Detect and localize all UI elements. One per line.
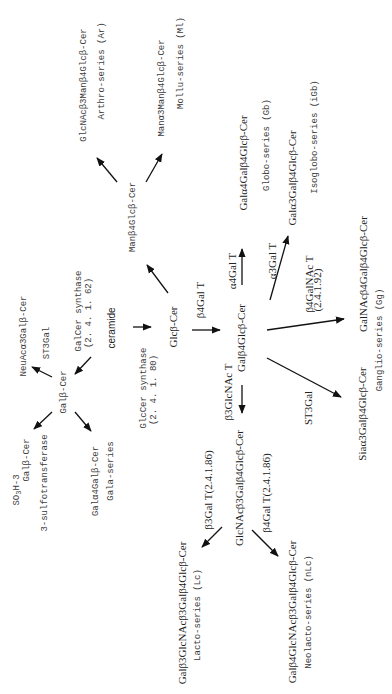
enzyme-b3glcnact: β3GlcNAc T	[223, 363, 234, 420]
arrow-to-arthro-core	[97, 158, 117, 182]
glycosphingolipid-pathway-diagram: GlcNAcβ3Manβ4Glcβ-Cer Arthro-series (Ar)…	[0, 0, 392, 694]
series-gala: Gala-series	[107, 441, 116, 500]
node-sialyl-lactosylcer: Siaα3Galβ4Glcβ-Cer	[357, 367, 368, 460]
enzyme-b3galt: β3Gal T(2.4.1.86)	[203, 450, 214, 529]
arrow-to-sulfo-galcer	[34, 412, 52, 429]
arrow-to-lacto-core	[202, 527, 222, 547]
series-ganglio: Ganglio-series (Gg)	[376, 289, 385, 392]
node-lacto-core: Galβ3GlcNAcβ3Galβ4Glcβ-Cer	[177, 542, 188, 685]
enzyme-a3galt: α3Gal T	[267, 243, 278, 279]
enzyme-b4galnact-ec: (2.4.1.92)	[312, 268, 323, 311]
sulfo-prefix-subscript: 3	[15, 491, 23, 495]
enzyme-glccer-synthase-ec: (2. 4. 1. 80)	[150, 355, 159, 425]
arrow-glccer-to-manglccer	[147, 265, 168, 293]
node-neuac-galcer: NeuAcα3Galβ-Cer	[20, 295, 29, 376]
series-neolacto: Neolacto-series (nLc)	[305, 555, 314, 668]
sulfo-prefix-h3: H-3	[12, 474, 22, 490]
node-lactotriaosylcer: GlcNAcβ3Galβ4Glcβ-Cer	[234, 430, 245, 546]
node-gala-core: Galα4Galβ-Cer	[92, 446, 101, 516]
node-arthro-core: GlcNAcβ3Manβ4Glcβ-Cer	[80, 28, 89, 141]
arrow-to-neuac-galcer	[32, 367, 52, 377]
enzyme-st3gal-right: ST3Gal	[303, 391, 314, 425]
enzyme-a4galt: α4Gal T	[227, 253, 238, 289]
node-manglccer: Manβ4Glcβ-Cer	[129, 182, 138, 252]
series-arthro: Arthro-series (Ar)	[98, 22, 107, 119]
arrow-to-neolacto-core	[252, 530, 278, 556]
node-ceramide: ceramide	[107, 307, 117, 348]
enzyme-b4galt: β4Gal T	[195, 282, 206, 318]
node-galcer: Galβ-Cer	[60, 370, 69, 413]
enzyme-galcer-synthase-ec: (2. 4. 1. 62)	[85, 278, 94, 348]
arrow-ceramide-to-galcer	[75, 357, 91, 374]
series-globo: Globo-series (Gb)	[263, 99, 272, 191]
node-lactosylcer: Galβ4Glcβ-Cer	[236, 304, 247, 372]
enzyme-b4galt-ec: β4Gal T(2.4.1.86)	[261, 453, 272, 532]
arrow-to-mollu-core	[146, 154, 162, 182]
arrow-to-ganglio-core	[267, 319, 344, 330]
arrow-to-gala-core	[75, 412, 91, 431]
node-globo-core: Galα4Galβ4Glcβ-Cer	[238, 115, 249, 210]
enzyme-glccer-synthase: GlcCer synthase	[140, 347, 149, 428]
series-mollu: Mollu-series (Ml)	[177, 17, 186, 109]
sulfo-prefix-so: SO	[12, 495, 22, 506]
enzyme-st3gal-left: ST3Gal	[43, 327, 52, 359]
series-isoglobo: Isoglobo-series (iGb)	[311, 80, 320, 193]
enzyme-galcer-synthase: GalCer synthase	[75, 270, 84, 351]
node-ganglio-core: GalNAcβ4Galβ4Glcβ-Cer	[358, 216, 369, 332]
node-neolacto-core: Galβ4GlcNAcβ3Galβ4Glcβ-Cer	[287, 541, 298, 684]
series-lacto: Lacto-series (Lc)	[194, 569, 203, 661]
node-sulfo-galcer: Galβ-Cer	[23, 438, 32, 481]
node-isoglobo-core: Galα3Galβ4Glcβ-Cer	[287, 130, 298, 225]
node-mollu-core: Manα3Manβ4Glcβ-Cer	[158, 39, 167, 136]
enzyme-sulfotransferase: 3-sulfotransferase	[41, 434, 50, 531]
node-glccer: Glcβ-Cer	[168, 306, 179, 347]
